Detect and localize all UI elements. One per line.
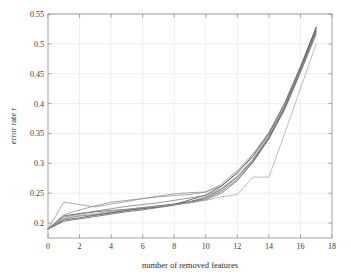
- y-tick-label: 0.3: [34, 159, 44, 168]
- y-tick-label: 0.2: [34, 219, 44, 228]
- y-tick-label: 0.55: [30, 10, 44, 19]
- y-tick-label: 0.4: [34, 100, 44, 109]
- plot-background: [0, 0, 351, 276]
- x-tick-label: 8: [172, 242, 176, 251]
- y-tick-label: 0.5: [34, 40, 44, 49]
- line-chart: 024681012141618 0.20.250.30.350.40.450.5…: [0, 0, 351, 276]
- y-tick-label: 0.25: [30, 189, 44, 198]
- x-tick-label: 2: [78, 242, 82, 251]
- x-tick-label: 12: [233, 242, 241, 251]
- x-tick-label: 18: [328, 242, 336, 251]
- y-tick-label: 0.35: [30, 129, 44, 138]
- x-tick-label: 4: [109, 242, 113, 251]
- x-tick-label: 6: [141, 242, 145, 251]
- x-axis-title: number of removed features: [142, 260, 238, 270]
- y-axis-title: error rate r: [8, 108, 18, 145]
- x-tick-label: 16: [296, 242, 304, 251]
- x-tick-label: 0: [46, 242, 50, 251]
- x-tick-label: 14: [265, 242, 273, 251]
- x-tick-label: 10: [202, 242, 210, 251]
- y-tick-label: 0.45: [30, 70, 44, 79]
- figure-container: 024681012141618 0.20.250.30.350.40.450.5…: [0, 0, 351, 276]
